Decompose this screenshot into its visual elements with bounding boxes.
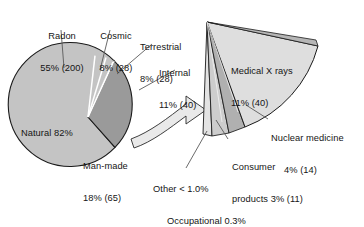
label-man-made-value: 18% (65) <box>83 193 143 204</box>
label-natural-text: Natural 82% <box>21 128 101 139</box>
label-cosmic-value: 8% (28) <box>93 63 139 74</box>
label-man-made-name: Man-made <box>83 161 143 172</box>
label-radon-value: 55% (200) <box>34 63 90 74</box>
label-medical-xrays-name: Medical X rays <box>231 66 303 77</box>
label-medical-xrays-value: 11% (40) <box>231 98 303 109</box>
label-other-group: Other < 1.0% Occupational 0.3% Fallout <… <box>153 163 293 227</box>
label-internal-name: Internal <box>159 68 213 79</box>
label-other-heading: Other < 1.0% <box>153 184 293 195</box>
label-internal-value: 11% (40) <box>159 100 213 111</box>
label-cosmic-name: Cosmic <box>93 31 139 42</box>
label-cosmic: Cosmic 8% (28) <box>93 10 139 95</box>
label-radon-name: Radon <box>34 31 90 42</box>
label-man-made: Man-made 18% (65) <box>83 140 143 225</box>
label-radon: Radon 55% (200) <box>34 10 90 95</box>
label-internal: Internal 11% (40) <box>159 47 213 132</box>
label-other-occupational: Occupational 0.3% <box>153 216 293 227</box>
radiation-dose-pie-figure: Radon 55% (200) Cosmic 8% (28) Terrestri… <box>0 0 364 227</box>
